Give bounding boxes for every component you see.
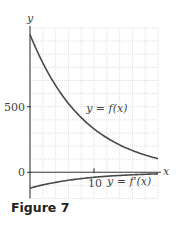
ticks xyxy=(27,107,94,174)
x-axis-label: x xyxy=(163,165,170,178)
y-axis-label: y xyxy=(26,12,34,25)
svg-text:500: 500 xyxy=(4,101,25,114)
svg-text:10: 10 xyxy=(88,177,102,190)
svg-text:0: 0 xyxy=(18,166,25,179)
figure-caption: Figure 7 xyxy=(11,200,69,215)
chart: y x 100500 y = f(x) y = f'(x) xyxy=(0,0,178,225)
annotation-f-prime: y = f'(x) xyxy=(106,175,151,188)
annotation-f: y = f(x) xyxy=(85,102,127,115)
